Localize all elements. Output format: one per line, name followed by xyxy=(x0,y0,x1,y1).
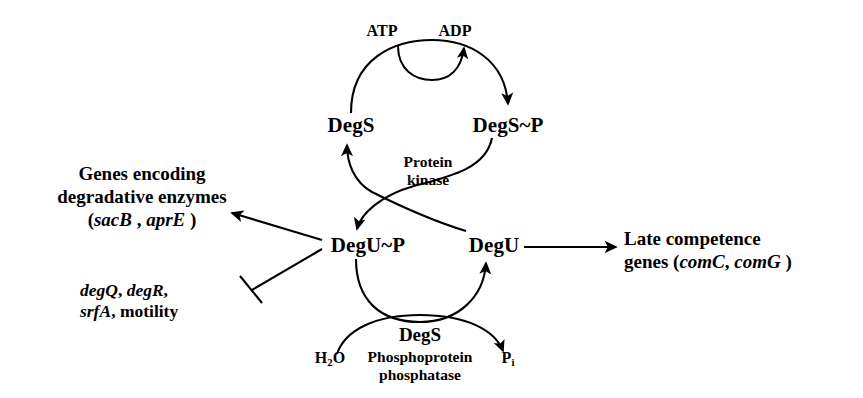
arrow-degUP-to-degU xyxy=(356,259,486,322)
phosphatase-line-2: phosphatase xyxy=(368,366,473,384)
degradative-gene-list: (sacB , aprE ) xyxy=(57,209,226,232)
gene-aprE: aprE xyxy=(146,209,185,230)
arrow-atp-to-adp xyxy=(398,46,464,80)
node-degS-phosphorylated: DegS~P xyxy=(472,113,543,137)
label-atp: ATP xyxy=(367,22,398,41)
pathway-diagram: ATP ADP DegS DegS~P Protein kinase DegU~… xyxy=(0,0,863,398)
phosphatase-line-1: Phosphoprotein xyxy=(368,348,473,366)
node-degS-bottom-text: DegS xyxy=(399,324,441,345)
degradative-line-2: degradative enzymes xyxy=(57,186,226,209)
repressed-separator-1: , xyxy=(118,280,127,300)
repressed-line-1: degQ, degR, xyxy=(80,280,178,301)
node-degU-phosphorylated-text: DegU~P xyxy=(331,233,406,257)
target-repressed-genes: degQ, degR, srfA, motility xyxy=(80,280,178,322)
node-degS-top-text: DegS xyxy=(327,113,374,137)
water-suffix: O xyxy=(333,349,345,366)
target-late-competence-genes: Late competence genes (comC, comG ) xyxy=(624,228,792,274)
repressed-separator-2: , xyxy=(164,280,168,300)
annotation-protein-kinase: Protein kinase xyxy=(404,153,453,189)
node-degS-bottom: DegS xyxy=(399,324,441,346)
label-adp: ADP xyxy=(439,22,472,41)
gene-sacB: sacB xyxy=(94,209,132,230)
competence-line-2: genes (comC, comG ) xyxy=(624,251,792,274)
gene-comG: comG xyxy=(734,251,780,272)
competence-prefix: genes ( xyxy=(624,251,679,272)
inhibition-tbar-icon xyxy=(240,276,262,303)
node-degU-phosphorylated: DegU~P xyxy=(331,233,406,257)
water-subscript: 2 xyxy=(327,356,332,368)
degradative-paren-close: ) xyxy=(185,209,196,230)
repressed-motility: motility xyxy=(120,301,178,321)
repressed-separator-3: , xyxy=(111,301,120,321)
phosphate-subscript: i xyxy=(511,356,514,368)
degradative-line-1: Genes encoding xyxy=(57,163,226,186)
node-degU-text: DegU xyxy=(469,233,520,257)
repressed-line-2: srfA, motility xyxy=(80,301,178,322)
gene-degQ: degQ xyxy=(80,280,118,300)
inhibition-line-degUP-to-repressed-targets xyxy=(252,249,322,290)
arrow-degUP-to-degradative-genes xyxy=(232,213,322,240)
competence-paren-close: ) xyxy=(781,251,792,272)
gene-degR: degR xyxy=(127,280,164,300)
label-inorganic-phosphate: Pi xyxy=(502,349,515,368)
node-degS-top: DegS xyxy=(327,113,374,137)
annotation-phosphoprotein-phosphatase: Phosphoprotein phosphatase xyxy=(368,348,473,384)
label-water: H2O xyxy=(315,349,345,368)
competence-line-1: Late competence xyxy=(624,228,792,251)
protein-kinase-line-1: Protein xyxy=(404,153,453,171)
arrow-degS-to-degSP xyxy=(351,40,508,113)
phosphate-prefix: P xyxy=(502,349,512,366)
node-degS-phosphorylated-text: DegS~P xyxy=(472,113,543,137)
competence-separator: , xyxy=(725,251,735,272)
node-degU: DegU xyxy=(469,233,520,257)
water-prefix: H xyxy=(315,349,327,366)
gene-comC: comC xyxy=(679,251,724,272)
protein-kinase-line-2: kinase xyxy=(404,171,453,189)
target-degradative-enzyme-genes: Genes encoding degradative enzymes (sacB… xyxy=(57,163,226,231)
gene-srfA: srfA xyxy=(80,301,111,321)
degradative-separator: , xyxy=(132,209,146,230)
